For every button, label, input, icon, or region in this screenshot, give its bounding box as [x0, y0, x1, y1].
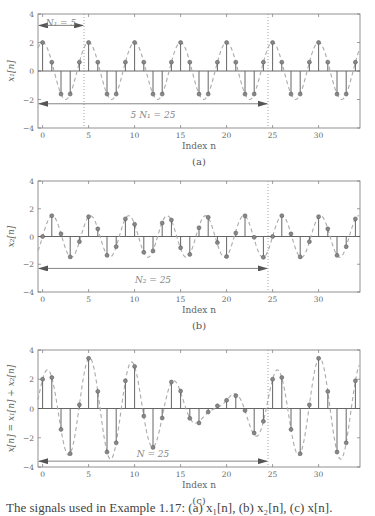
stem-marker	[50, 375, 54, 379]
stem-marker	[179, 246, 183, 250]
stem-marker	[188, 252, 192, 256]
stem-marker	[169, 60, 173, 64]
stem-marker	[326, 227, 330, 231]
stem-marker	[307, 403, 311, 407]
stem-marker	[59, 232, 63, 236]
stem-marker	[50, 214, 54, 218]
stem-marker	[353, 379, 357, 383]
x-tick-label: 25	[268, 295, 278, 304]
y-tick-label: 4	[29, 177, 34, 186]
stem-marker	[77, 240, 81, 244]
stem-marker	[280, 60, 284, 64]
x-axis-label: Index n	[182, 480, 216, 490]
y-tick-label: 2	[29, 39, 34, 48]
x-tick-label: 0	[40, 131, 45, 140]
stem-marker	[289, 427, 293, 431]
x-tick-label: 5	[86, 295, 91, 304]
stem-marker	[77, 403, 81, 407]
x-tick-label: 10	[130, 131, 140, 140]
period-annotation: N₂ = 25	[134, 275, 171, 285]
stem-marker	[317, 356, 321, 360]
stem-marker	[344, 245, 348, 249]
stem-marker	[335, 253, 339, 257]
y-tick-label: 0	[29, 67, 34, 76]
stem-marker	[87, 356, 91, 360]
x-tick-label: 20	[222, 295, 232, 304]
stem-marker	[123, 60, 127, 64]
chart-panel-a: 051015202530−4−2024N₁ = 55 N₁ = 25x₁[n]I…	[6, 10, 360, 167]
y-axis-label: x[n] = x₁[n] + x₂[n]	[6, 364, 16, 452]
stem-marker	[225, 254, 229, 258]
y-axis-label: x₁[n]	[6, 60, 16, 82]
x-tick-label: 20	[222, 470, 232, 479]
stem-marker	[252, 235, 256, 239]
stem-marker	[234, 60, 238, 64]
stem-marker	[169, 218, 173, 222]
stem-marker	[114, 245, 118, 249]
y-tick-label: 4	[29, 346, 34, 355]
x-tick-label: 30	[314, 131, 324, 140]
stem-marker	[307, 60, 311, 64]
x-tick-label: 15	[176, 131, 186, 140]
stem-marker	[234, 394, 238, 398]
figure-caption: The signals used in Example 1.17: (a) x₁…	[6, 500, 332, 516]
y-tick-label: 0	[29, 233, 34, 242]
stem-marker	[188, 416, 192, 420]
y-axis-label: x₂[n]	[6, 225, 16, 247]
stem-marker	[326, 389, 330, 393]
stem-marker	[133, 222, 137, 226]
stem-marker	[114, 92, 118, 96]
stem-marker	[280, 375, 284, 379]
stem-marker	[243, 408, 247, 412]
stem-marker	[105, 450, 109, 454]
stem-marker	[289, 92, 293, 96]
panel-label: (a)	[192, 156, 206, 167]
stem-marker	[206, 215, 210, 219]
stem-marker	[68, 255, 72, 259]
stem-marker	[271, 41, 275, 45]
stem-marker	[215, 241, 219, 245]
stem-marker	[188, 60, 192, 64]
stem-marker	[252, 92, 256, 96]
stem-marker	[87, 215, 91, 219]
x-tick-label: 10	[130, 470, 140, 479]
x-tick-label: 0	[40, 295, 45, 304]
stem-marker	[59, 92, 63, 96]
stem-marker	[41, 41, 45, 45]
stem-marker	[206, 410, 210, 414]
period-annotation: N = 25	[136, 449, 170, 459]
stem-marker	[50, 60, 54, 64]
stem-marker	[123, 379, 127, 383]
x-tick-label: 30	[314, 295, 324, 304]
x-tick-label: 5	[86, 470, 91, 479]
stem-marker	[225, 41, 229, 45]
stem-marker	[298, 452, 302, 456]
y-tick-label: −2	[23, 96, 34, 105]
stem-marker	[280, 214, 284, 218]
stem-marker	[96, 389, 100, 393]
y-tick-label: 0	[29, 405, 34, 414]
stem-marker	[353, 217, 357, 221]
y-tick-label: −4	[23, 288, 34, 297]
stem-marker	[243, 92, 247, 96]
y-tick-label: −4	[23, 124, 34, 133]
x-tick-label: 15	[176, 295, 186, 304]
stem-marker	[335, 450, 339, 454]
stem-marker	[179, 389, 183, 393]
y-tick-label: −2	[23, 434, 34, 443]
stem-marker	[160, 221, 164, 225]
stem-marker	[41, 377, 45, 381]
stem-marker	[160, 92, 164, 96]
stem-marker	[261, 419, 265, 423]
stem-marker	[114, 441, 118, 445]
stem-marker	[197, 226, 201, 230]
stem-marker	[298, 255, 302, 259]
chart-panel-b: 051015202530−4−2024N₂ = 25x₂[n]Index n(b…	[6, 177, 360, 331]
stem-marker	[169, 380, 173, 384]
x-tick-label: 25	[268, 131, 278, 140]
y-tick-label: −2	[23, 260, 34, 269]
stem-marker	[317, 215, 321, 219]
stem-marker	[96, 60, 100, 64]
stem-marker	[96, 227, 100, 231]
